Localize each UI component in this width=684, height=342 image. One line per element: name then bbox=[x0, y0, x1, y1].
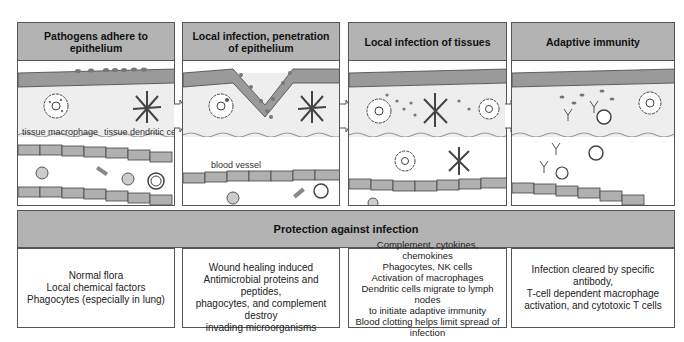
protection-box-tissue-infection: Complement, cytokines, chemokines Phagoc… bbox=[348, 248, 507, 328]
macrophage-icon bbox=[479, 99, 499, 119]
protection-line: Activation of macrophages bbox=[372, 272, 484, 283]
macrophage-icon bbox=[44, 94, 68, 118]
protection-line: Phagocytes (especially in lung) bbox=[27, 294, 165, 306]
protection-box-adhesion: Normal flora Local chemical factors Phag… bbox=[17, 248, 175, 328]
protection-box-penetration: Wound healing induced Antimicrobial prot… bbox=[182, 248, 340, 328]
protection-line: Blood clotting helps limit spread of bbox=[355, 316, 499, 327]
tissue-infection-illustration bbox=[349, 61, 507, 206]
protection-line: infection bbox=[410, 327, 445, 338]
protection-line: Phagocytes, NK cells bbox=[383, 261, 473, 272]
protection-line: invading microorganisms bbox=[206, 322, 317, 334]
stage-panel-penetration: Local infection, penetration of epitheli… bbox=[182, 22, 340, 206]
protection-line: Complement, cytokines, chemokines bbox=[353, 239, 502, 261]
macrophage-icon bbox=[209, 94, 233, 118]
stage-title: Local infection, penetration of epitheli… bbox=[183, 23, 339, 61]
macrophage-icon bbox=[367, 99, 391, 123]
protection-line: activation, and cytotoxic T cells bbox=[524, 300, 661, 312]
stage-panel-tissue-infection: Local infection of tissues bbox=[348, 22, 507, 206]
protection-line: Infection cleared by specific antibody, bbox=[516, 264, 670, 288]
stage-panel-adhesion: Pathogens adhere to epithelium tissue ma… bbox=[17, 22, 175, 206]
protection-line: T-cell dependent macrophage bbox=[527, 288, 659, 300]
stage-title: Adaptive immunity bbox=[512, 23, 674, 61]
protection-line: Antimicrobial proteins and peptides, bbox=[187, 274, 335, 298]
protection-box-adaptive-immunity: Infection cleared by specific antibody, … bbox=[511, 248, 675, 328]
macrophage-label: tissue macrophage bbox=[22, 127, 98, 137]
stage-panel-adaptive-immunity: Adaptive immunity bbox=[511, 22, 675, 206]
blood-vessel-label: blood vessel bbox=[211, 160, 261, 170]
protection-line: Normal flora bbox=[69, 270, 123, 282]
antibody-icon bbox=[564, 101, 598, 121]
protection-banner: Protection against infection bbox=[17, 210, 675, 248]
dendritic-cell-label: tissue dendritic cell bbox=[104, 127, 175, 137]
protection-line: Dendritic cells migrate to lymph nodes bbox=[353, 283, 502, 305]
protection-line: to initiate adaptive immunity bbox=[369, 305, 486, 316]
dendritic-cell-icon bbox=[298, 91, 326, 123]
stage-title: Local infection of tissues bbox=[349, 23, 506, 61]
dendritic-cell-icon bbox=[133, 91, 161, 123]
protection-line: Wound healing induced bbox=[209, 262, 313, 274]
dendritic-cell-icon bbox=[424, 93, 447, 127]
stage-title: Pathogens adhere to epithelium bbox=[18, 23, 174, 61]
macrophage-icon bbox=[395, 151, 415, 171]
adaptive-immunity-illustration bbox=[512, 61, 675, 206]
penetration-illustration bbox=[183, 61, 340, 206]
macrophage-icon bbox=[639, 92, 661, 114]
protection-line: Local chemical factors bbox=[47, 282, 146, 294]
protection-line: phagocytes, and complement destroy bbox=[187, 298, 335, 322]
